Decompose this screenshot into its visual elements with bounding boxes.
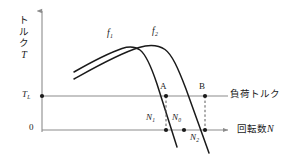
curve-f1 bbox=[74, 47, 177, 147]
y-axis-caption: ト ル ク T bbox=[17, 14, 31, 61]
x-axis-caption: 回転数N bbox=[237, 124, 274, 135]
tick-label-origin: 0 bbox=[29, 123, 34, 132]
tick-label-tl-subscript: L bbox=[27, 94, 30, 100]
point-label-b: B bbox=[199, 82, 205, 91]
curve-label-f1: f1 bbox=[107, 29, 113, 39]
tick-label-n0: N0 bbox=[172, 113, 181, 122]
marker-n1 bbox=[164, 128, 168, 132]
marker-point-a bbox=[164, 94, 168, 98]
tick-label-n2-subscript: 2 bbox=[196, 137, 199, 143]
marker-tl bbox=[40, 94, 44, 98]
curve-label-f1-subscript: 1 bbox=[110, 33, 113, 39]
tick-label-n1: N1 bbox=[146, 113, 155, 122]
marker-n2 bbox=[203, 128, 207, 132]
tick-label-n2: N2 bbox=[190, 133, 199, 142]
torque-speed-diagram: ト ル ク T 回転数N 負荷トルク f1 f2 A B TL 0 N1 N0 … bbox=[0, 0, 288, 157]
tick-label-tl: TL bbox=[22, 90, 30, 99]
y-axis-caption-jp-2: ル bbox=[17, 26, 31, 38]
curve-label-f2: f2 bbox=[152, 27, 158, 37]
x-axis-caption-symbol: N bbox=[267, 123, 274, 134]
y-axis-caption-symbol: T bbox=[17, 49, 31, 61]
load-torque-label: 負荷トルク bbox=[230, 89, 280, 99]
x-axis-caption-jp: 回転数 bbox=[237, 123, 267, 134]
point-label-a: A bbox=[160, 82, 167, 91]
marker-n0 bbox=[182, 128, 186, 132]
y-axis-caption-jp-1: ト bbox=[17, 14, 31, 26]
y-axis-caption-jp-3: ク bbox=[17, 37, 31, 49]
marker-point-b bbox=[203, 94, 207, 98]
tick-label-n1-subscript: 1 bbox=[152, 117, 155, 123]
tick-label-n0-subscript: 0 bbox=[178, 117, 181, 123]
curve-label-f2-subscript: 2 bbox=[155, 31, 158, 37]
